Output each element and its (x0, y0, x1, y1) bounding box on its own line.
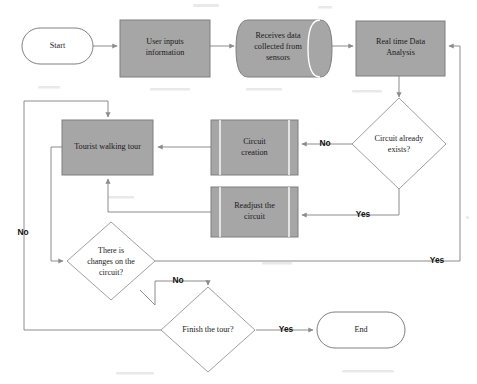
node-end[interactable]: End (317, 312, 405, 348)
edge-label-finish-yes: Yes (279, 324, 294, 334)
node-start[interactable]: Start (22, 28, 93, 64)
node-circuit-creation[interactable]: Circuit creation (211, 120, 298, 175)
node-user-inputs[interactable]: User inputs information (120, 20, 210, 77)
node-user-inputs-line2: information (146, 48, 185, 57)
node-realtime-analysis[interactable]: Real time Data Analysis (356, 21, 445, 76)
node-realtime-line1: Real time Data (376, 37, 425, 46)
node-walking-tour-label: Tourist walking tour (74, 142, 141, 151)
node-receives-data-line2: collected from (254, 42, 302, 51)
node-receives-data-line3: sensors (266, 53, 290, 62)
node-changes-line3: circuit? (99, 268, 123, 277)
edge-label-exists-no: No (319, 138, 330, 148)
node-readjust-line2: circuit (244, 212, 266, 221)
node-user-inputs-line1: User inputs (146, 37, 184, 46)
node-readjust-circuit[interactable]: Readjust the circuit (211, 187, 298, 237)
node-circuit-exists-line2: exists? (388, 145, 411, 154)
edge-readjust-to-walkingtour (108, 179, 211, 212)
edge-label-exists-yes: Yes (356, 209, 371, 219)
node-receives-data-line1: Receives data (255, 31, 301, 40)
flowchart-canvas: Start User inputs information Receives d… (0, 0, 477, 384)
node-finish-decision[interactable]: Finish the tour? (161, 287, 255, 372)
flowchart-svg: Start User inputs information Receives d… (0, 0, 477, 384)
node-walking-tour[interactable]: Tourist walking tour (62, 120, 153, 175)
node-end-label: End (354, 325, 367, 334)
node-circuit-exists-line1: Circuit already (375, 134, 425, 143)
edge-label-changes-no: No (172, 275, 183, 285)
node-circuit-creation-line1: Circuit (243, 137, 266, 146)
node-finish-label: Finish the tour? (182, 325, 234, 334)
edge-label-finish-no: No (17, 227, 28, 237)
node-readjust-line1: Readjust the (234, 201, 275, 210)
node-realtime-line2: Analysis (386, 48, 415, 57)
node-receives-data[interactable]: Receives data collected from sensors (236, 20, 332, 77)
edge-circuitexists-yes-to-readjust (302, 189, 399, 215)
node-start-label: Start (50, 41, 66, 50)
edge-label-changes-yes: Yes (430, 255, 445, 265)
node-circuit-exists-decision[interactable]: Circuit already exists? (352, 98, 446, 189)
node-changes-line1: There is (98, 246, 124, 255)
node-changes-line2: changes on the (87, 257, 135, 266)
node-changes-decision[interactable]: There is changes on the circuit? (67, 222, 155, 300)
node-circuit-creation-line2: creation (241, 148, 267, 157)
edge-walkingtour-to-changes (51, 147, 63, 261)
